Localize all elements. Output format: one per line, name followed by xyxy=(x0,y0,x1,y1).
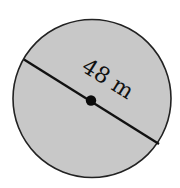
circle-diagram: 48 m xyxy=(0,0,180,188)
center-dot xyxy=(86,95,96,105)
